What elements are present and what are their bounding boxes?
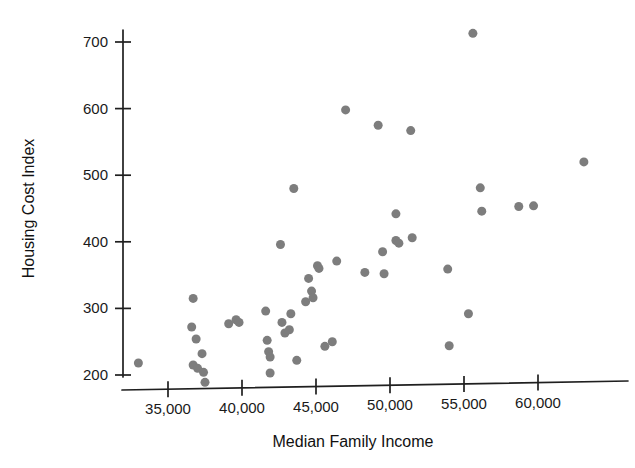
data-point [328,337,337,346]
data-point [276,240,285,249]
data-point [189,294,198,303]
data-point [266,369,275,378]
y-tick-label-300: 300 [83,299,108,316]
data-point [309,293,318,302]
data-point [391,209,400,218]
x-tick-label-55000: 55,000 [441,395,487,412]
data-point [286,309,295,318]
data-point [579,157,588,166]
data-point [394,239,403,248]
data-point [374,121,383,130]
data-point [198,349,207,358]
data-point [261,307,270,316]
data-point [289,184,298,193]
data-point [445,341,454,350]
scatter-plot-figure: 20030040050060070035,00040,00045,00050,0… [0,0,635,468]
data-point [514,202,523,211]
data-point [266,353,275,362]
x-tick-label-50000: 50,000 [367,396,413,413]
data-point [406,126,415,135]
axes-group [115,30,628,397]
data-point [134,359,143,368]
data-point [320,342,329,351]
x-tick-label-40000: 40,000 [219,399,265,416]
plot-canvas: 20030040050060070035,00040,00045,00050,0… [0,0,635,468]
data-point [476,183,485,192]
data-point [529,201,538,210]
data-point [199,368,208,377]
x-tick-label-35000: 35,000 [145,400,191,417]
x-tick-label-60000: 60,000 [515,394,561,411]
data-point [341,105,350,114]
y-tick-label-500: 500 [83,166,108,183]
data-point [192,335,201,344]
data-point [263,336,272,345]
data-point [292,356,301,365]
data-point [408,233,417,242]
data-point [468,29,477,38]
data-points-group [134,29,588,387]
data-point [285,325,294,334]
data-point [314,264,323,273]
data-point [187,323,196,332]
data-point [380,269,389,278]
y-tick-label-200: 200 [83,366,108,383]
data-point [464,309,473,318]
y-tick-label-400: 400 [83,233,108,250]
data-point [304,274,313,283]
data-point [477,207,486,216]
data-point [277,318,286,327]
data-point [332,257,341,266]
x-axis-line [122,381,628,390]
y-tick-label-600: 600 [83,100,108,117]
data-point [378,247,387,256]
x-axis-title: Median Family Income [273,433,434,450]
y-axis-title: Housing Cost Index [20,139,37,279]
data-point [443,265,452,274]
y-tick-label-700: 700 [83,33,108,50]
data-point [235,318,244,327]
x-tick-label-45000: 45,000 [293,398,339,415]
data-point [201,378,210,387]
data-point [360,268,369,277]
